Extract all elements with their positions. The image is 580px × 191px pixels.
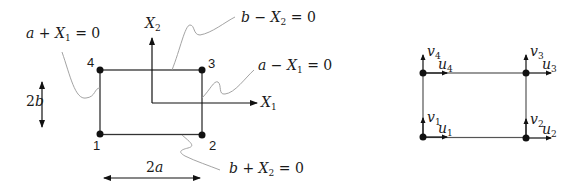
x1-axis-label: X1 xyxy=(260,94,277,112)
top-boundary-leader xyxy=(172,17,235,70)
height-dimension-label: 2b xyxy=(26,93,44,109)
node-3-label: 3 xyxy=(208,56,215,71)
right-boundary-leader xyxy=(202,70,254,98)
right-boundary-equation: a − X1 = 0 xyxy=(258,57,332,75)
top-boundary-equation: b − X2 = 0 xyxy=(241,9,316,27)
left-element-diagram: X2 X1 4 3 1 2 a + X1 = 0 b − X2 = 0 a − … xyxy=(26,9,332,178)
u3-label: u3 xyxy=(542,56,557,74)
bottom-boundary-equation: b + X2 = 0 xyxy=(229,160,304,178)
node-2 xyxy=(199,132,206,139)
node-2-label: 2 xyxy=(209,138,216,153)
left-boundary-equation: a + X1 = 0 xyxy=(26,25,100,43)
left-boundary-leader xyxy=(62,52,100,98)
node-1-label: 1 xyxy=(93,138,100,153)
node-1 xyxy=(97,131,104,138)
diagram-canvas: X2 X1 4 3 1 2 a + X1 = 0 b − X2 = 0 a − … xyxy=(0,0,580,191)
right-dof-diagram: v4 u4 v3 u3 v1 u1 v2 u2 xyxy=(420,43,558,142)
node-4 xyxy=(97,67,104,74)
node-4-label: 4 xyxy=(87,55,94,70)
node-3 xyxy=(199,67,206,74)
u2-label: u2 xyxy=(542,121,557,139)
u1-label: u1 xyxy=(438,120,453,138)
u4-label: u4 xyxy=(438,56,453,74)
element-rectangle xyxy=(100,70,202,135)
x2-axis-label: X2 xyxy=(144,15,161,33)
width-dimension-label: 2a xyxy=(146,159,163,175)
